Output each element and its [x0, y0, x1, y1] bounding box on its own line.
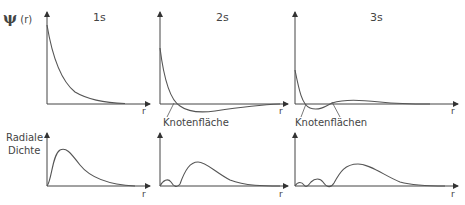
- curve-1s-density: [47, 149, 135, 186]
- panel-title-3s: 3s: [370, 12, 383, 23]
- x-label-3s-density: r: [451, 190, 455, 199]
- x-label-2s-psi: r: [279, 107, 283, 116]
- curve-2s-density: [160, 162, 280, 186]
- annotation-2s: Knotenfläche: [163, 118, 229, 128]
- y-label-density-line2: Dichte: [8, 146, 40, 156]
- x-label-2s-density: r: [279, 190, 283, 199]
- axes-2s-density: [160, 133, 288, 186]
- curve-3s-psi: [295, 70, 430, 109]
- axes-3s-density: [295, 133, 458, 186]
- annotation-3s: Knotenflächen: [295, 118, 367, 128]
- x-label-3s-psi: r: [451, 107, 455, 116]
- y-label-density-line1: Radiale: [6, 133, 43, 143]
- axes-2s-psi: [160, 12, 288, 104]
- x-label-1s-psi: r: [142, 107, 146, 116]
- x-label-1s-density: r: [142, 190, 146, 199]
- curve-2s-psi: [160, 48, 280, 112]
- curve-3s-density: [295, 164, 445, 187]
- panel-title-2s: 2s: [216, 12, 229, 23]
- axes-1s-psi: [47, 12, 150, 104]
- leader-3s-node-1: [301, 104, 306, 117]
- psi-arg: (r): [20, 14, 32, 25]
- curve-1s-psi: [47, 25, 125, 104]
- orbital-plots: [0, 0, 465, 205]
- panel-title-1s: 1s: [93, 12, 106, 23]
- y-label-psi: ψ (r): [3, 11, 32, 26]
- psi-symbol: ψ: [3, 9, 17, 27]
- leader-2s-node: [167, 103, 174, 117]
- axes-3s-psi: [295, 12, 458, 104]
